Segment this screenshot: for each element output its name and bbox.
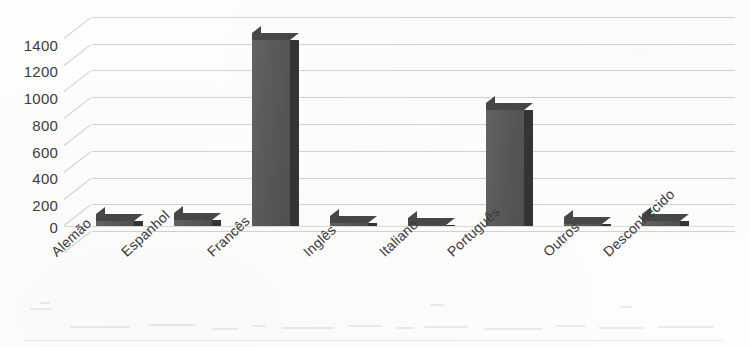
bar-desconhecido[interactable]: [642, 0, 680, 347]
bar-outros[interactable]: [564, 0, 602, 347]
bar-espanhol-top: [174, 213, 212, 220]
bar-desconhecido-side: [680, 221, 689, 226]
bar-alemao-front: [96, 221, 134, 226]
bar-portugues-side: [524, 110, 533, 226]
bar-outros-side: [602, 224, 611, 226]
bar-ingles-front: [330, 223, 368, 226]
bar-alemao[interactable]: [96, 0, 134, 347]
bar-espanhol-side: [212, 220, 221, 226]
bar-alemao-top: [96, 214, 134, 221]
bar-italiano-side: [446, 225, 455, 226]
bar-ingles[interactable]: [330, 0, 368, 347]
bar-frances-front: [252, 40, 290, 226]
bar-italiano[interactable]: [408, 0, 446, 347]
bar-series: [0, 0, 750, 347]
bar-ingles-top: [330, 216, 368, 223]
bar-espanhol-front: [174, 220, 212, 226]
chart-figure: 1400 1200 1000 800 600 400 200 0: [0, 0, 750, 347]
bar-portugues[interactable]: [486, 0, 524, 347]
bar-frances[interactable]: [252, 0, 290, 347]
bar-frances-side: [290, 40, 299, 226]
bar-frances-top: [252, 33, 290, 40]
bar-portugues-top: [486, 103, 524, 110]
bar-espanhol[interactable]: [174, 0, 212, 347]
bar-ingles-side: [368, 223, 377, 226]
